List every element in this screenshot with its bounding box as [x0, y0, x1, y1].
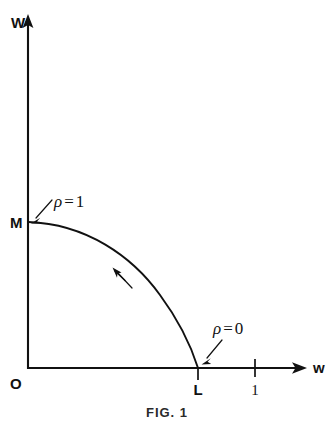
rho-zero-symbol: ρ [212, 319, 221, 338]
trajectory-curve [29, 222, 199, 368]
rho-one-label: ρ=1 [53, 192, 84, 211]
rho-one-symbol: ρ [53, 192, 62, 211]
y-axis-label: W [11, 14, 26, 31]
rho-one-value: 1 [76, 192, 85, 211]
rho-zero-label: ρ=0 [212, 319, 243, 338]
x-axis-group [28, 362, 307, 374]
figure-container: W w O L 1 M ρ=1 [0, 0, 334, 431]
rho-zero-value: 0 [235, 319, 244, 338]
y-axis-group [23, 14, 34, 369]
figure-svg: W w O L 1 M ρ=1 [0, 0, 334, 431]
rho-zero-operator: = [223, 319, 233, 338]
curve-direction-arrowhead-icon [113, 268, 133, 289]
rho-one-leader-line [36, 200, 52, 218]
x-tick-l-label: L [193, 381, 202, 398]
figure-caption: FIG. 1 [146, 405, 188, 420]
rho-equals-zero-annotation: ρ=0 [202, 319, 244, 365]
rho-one-leader-arrowhead-icon [31, 218, 41, 224]
rho-equals-one-annotation: ρ=1 [31, 192, 84, 224]
rho-one-operator: = [64, 192, 74, 211]
rho-zero-leader-line [207, 340, 222, 358]
origin-label: O [10, 375, 22, 392]
x-tick-one: 1 [251, 359, 259, 398]
m-point-label: M [10, 214, 23, 231]
x-tick-one-label: 1 [251, 382, 259, 398]
x-axis-label: w [312, 359, 325, 376]
rho-zero-leader-arrowhead-icon [202, 358, 212, 364]
x-tick-l: L [193, 369, 202, 398]
